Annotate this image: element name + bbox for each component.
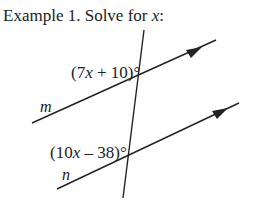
angle-top-label: (7x + 10)° — [71, 63, 140, 82]
line-n-label: n — [62, 166, 70, 183]
line-n-arrow-icon — [212, 108, 228, 119]
parallel-lines-diagram: (7x + 10)° (10x – 38)° m n — [0, 0, 254, 210]
line-m-label: m — [40, 98, 52, 115]
transversal-line — [123, 30, 144, 198]
line-m-arrow-icon — [186, 47, 202, 58]
angle-bottom-label: (10x – 38)° — [50, 143, 127, 162]
